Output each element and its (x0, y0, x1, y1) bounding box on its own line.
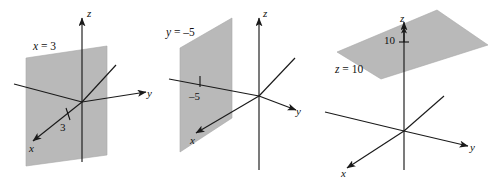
axis-label-x: x (28, 142, 34, 154)
axis-label-y: y (295, 105, 301, 117)
equation-label-x3: x = 3 (32, 40, 56, 52)
equation-rest-z10: = 10 (339, 63, 363, 75)
axis-label-z: z (399, 12, 405, 24)
axis-label-z: z (86, 7, 92, 19)
axis-label-y: y (469, 141, 475, 153)
axis-label-x: x (340, 167, 346, 179)
axis-x (347, 131, 404, 168)
panel-x-equals-3: z y x 3 x = 3 (0, 0, 155, 179)
axis-x-negative (259, 58, 295, 96)
measure-label-3: 3 (60, 121, 66, 133)
equation-label-z10: z = 10 (334, 63, 363, 75)
measure-label-10: 10 (384, 34, 396, 46)
plane-surface-x3 (26, 46, 107, 166)
axis-y (259, 96, 296, 110)
axis-label-z: z (262, 7, 268, 19)
plane-surface-y5 (180, 18, 232, 152)
axis-label-y: y (146, 87, 152, 99)
panel-z-equals-10: z y x 10 z = 10 (305, 0, 491, 179)
equation-rest-y5: = –5 (171, 26, 195, 38)
axis-x-negative (404, 96, 444, 131)
axis-y-negative (325, 112, 404, 131)
panel-y-equals-minus-5: z y x –5 y = –5 (155, 0, 305, 179)
axis-y (404, 131, 468, 146)
axis-label-x: x (189, 134, 195, 146)
equation-rest-x3: = 3 (38, 40, 56, 52)
figure-three-coordinate-planes: z y x 3 x = 3 z y x –5 y (0, 0, 491, 179)
measure-label-minus5: –5 (188, 90, 201, 102)
equation-label-y5: y = –5 (165, 26, 195, 39)
